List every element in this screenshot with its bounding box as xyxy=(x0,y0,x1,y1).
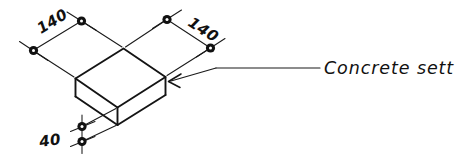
drawing-svg: 140 140 xyxy=(0,0,456,160)
dimension-dot-center xyxy=(81,140,84,143)
dimension-depth-140: 140 xyxy=(126,10,226,76)
dimension-dot-center xyxy=(209,47,212,50)
annotation-leader xyxy=(169,68,321,88)
concrete-sett-solid xyxy=(76,49,166,126)
box-front-bottom-right xyxy=(118,95,166,125)
box-top-face xyxy=(76,49,166,108)
dimension-dot-center xyxy=(32,49,35,52)
technical-drawing-canvas: 140 140 xyxy=(0,0,456,160)
dimension-label-depth: 140 xyxy=(185,13,222,46)
dimension-dot-center xyxy=(81,125,84,128)
extension-line-height-lower xyxy=(82,126,116,142)
dimension-dot-center xyxy=(166,18,169,21)
dimension-dot-center xyxy=(80,20,83,23)
dimension-height-40: 40 xyxy=(37,109,116,154)
dimension-label-height: 40 xyxy=(37,130,62,151)
annotation-label: Concrete sett xyxy=(324,58,454,78)
dimension-label-width: 140 xyxy=(34,5,71,37)
leader-angled-segment xyxy=(171,68,216,81)
dimension-width-140: 140 xyxy=(20,5,123,77)
leader-arrowhead-icon xyxy=(169,74,182,88)
extension-line-height-upper xyxy=(82,109,116,127)
